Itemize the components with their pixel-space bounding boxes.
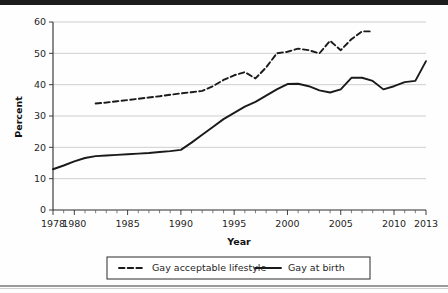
series-line-2 <box>53 61 426 169</box>
y-tick-label: 50 <box>34 48 46 59</box>
x-tick-label: 1980 <box>62 218 86 229</box>
y-tick-label: 0 <box>40 204 46 215</box>
chart-page: 0102030405060 19781980198519901995200020… <box>0 0 448 293</box>
y-tick-label: 60 <box>34 16 46 27</box>
x-tick-label: 1995 <box>222 218 246 229</box>
x-axis-title: Year <box>226 236 251 247</box>
y-axis-title: Percent <box>13 96 24 138</box>
x-tick-label: 2005 <box>329 218 353 229</box>
legend: Gay acceptable lifestyleGay at birth <box>107 257 370 279</box>
legend-label-1: Gay acceptable lifestyle <box>152 262 266 273</box>
legend-label-2: Gay at birth <box>288 262 345 273</box>
y-axis: 0102030405060 <box>34 16 53 215</box>
x-tick-label: 2013 <box>414 218 438 229</box>
x-tick-label: 1985 <box>116 218 140 229</box>
series-paths <box>53 31 426 169</box>
x-tick-label: 2010 <box>382 218 406 229</box>
bottom-divider-secondary <box>0 288 448 289</box>
y-tick-label: 40 <box>34 79 46 90</box>
x-tick-label: 1990 <box>169 218 193 229</box>
chart-svg: 0102030405060 19781980198519901995200020… <box>0 5 448 285</box>
y-tick-label: 30 <box>34 110 46 121</box>
y-tick-label: 20 <box>34 142 46 153</box>
line-chart-figure: 0102030405060 19781980198519901995200020… <box>0 5 448 285</box>
y-tick-label: 10 <box>34 173 46 184</box>
x-tick-label: 2000 <box>275 218 299 229</box>
bottom-divider <box>0 285 448 287</box>
x-axis: 197819801985199019952000200520102013 <box>41 210 438 229</box>
